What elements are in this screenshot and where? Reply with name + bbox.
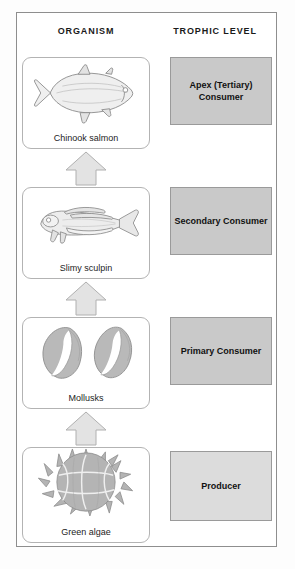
- organism-label: Mollusks: [23, 393, 149, 403]
- column-header-trophic-level: TROPHIC LEVEL: [156, 26, 274, 36]
- column-header-organism: ORGANISM: [22, 26, 150, 36]
- clipped-caption-strip: [0, 560, 295, 569]
- up-block-arrow-icon: [63, 280, 109, 316]
- organism-label: Green algae: [23, 527, 149, 537]
- sculpin-fish-illustration-icon: [23, 188, 149, 256]
- up-block-arrow-icon: [63, 150, 109, 186]
- organism-label: Slimy sculpin: [23, 263, 149, 273]
- organism-card-chinook-salmon: Chinook salmon: [22, 57, 150, 149]
- green-algae-colony-illustration-icon: [23, 448, 149, 516]
- food-chain-diagram: ORGANISM TROPHIC LEVEL: [0, 0, 295, 569]
- organism-card-green-algae: Green algae: [22, 447, 150, 543]
- trophic-level-box-primary-consumer: Primary Consumer: [170, 317, 272, 385]
- up-block-arrow-icon: [63, 410, 109, 446]
- organism-label: Chinook salmon: [23, 133, 149, 143]
- trophic-level-box-producer: Producer: [170, 451, 272, 521]
- mollusk-shells-illustration-icon: [23, 318, 149, 386]
- trophic-level-box-secondary-consumer: Secondary Consumer: [170, 187, 272, 255]
- salmon-fish-illustration-icon: [23, 58, 149, 126]
- trophic-level-box-apex-consumer: Apex (Tertiary) Consumer: [170, 57, 272, 125]
- organism-card-slimy-sculpin: Slimy sculpin: [22, 187, 150, 279]
- organism-card-mollusks: Mollusks: [22, 317, 150, 409]
